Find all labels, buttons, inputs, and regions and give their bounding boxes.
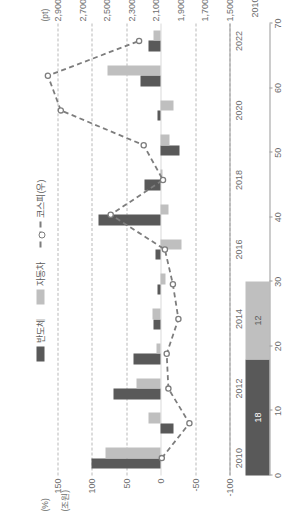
right-axis-tick-label: 1,500	[225, 0, 235, 21]
kospi-point-2017	[108, 212, 113, 217]
left-axis-tick-label: -50	[190, 478, 200, 491]
legend-item-semiconductor: 반도체	[34, 318, 47, 361]
left-axis-tick-label: 100	[87, 478, 97, 493]
x-axis-tick-label: 2016	[234, 239, 244, 259]
inset-plot-area: 1812	[246, 23, 258, 475]
legend-label-kospi: 코스피(우)	[34, 179, 47, 217]
right-axis-tick-label: 1,900	[175, 0, 185, 21]
kospi-point-2016	[162, 246, 167, 251]
kospi-line-series	[58, 23, 230, 475]
kospi-point-2011	[187, 420, 192, 425]
plot-area	[58, 23, 230, 475]
kospi-point-2014	[176, 316, 181, 321]
right-axis-tick-label: 2,500	[102, 0, 112, 21]
left-axis-tick-label: 0	[156, 478, 166, 483]
left-axis-tick-label: -100	[225, 478, 235, 496]
inset-axis-unit: (조원)	[58, 489, 70, 511]
legend-label-automobile: 자동차	[34, 261, 47, 285]
inset-segment-value-semiconductor: 18	[253, 412, 258, 422]
inset-segment-value-automobile: 12	[253, 315, 258, 325]
x-axis-line	[230, 23, 231, 475]
inset-segment-automobile: 12	[246, 281, 258, 358]
kospi-point-2010	[159, 455, 164, 460]
right-axis-unit: (pt)	[40, 8, 50, 21]
kospi-point-2015	[170, 281, 175, 286]
kospi-point-2021	[45, 73, 50, 78]
left-axis-unit: (%)	[40, 498, 50, 511]
right-axis-tick-label: 2,900	[53, 0, 63, 21]
x-axis-tick-label: 2020	[234, 100, 244, 120]
x-axis-tick-label: 2012	[234, 378, 244, 398]
right-axis-ticks: 2,9002,7002,5002,3002,1001,9001,7001,500	[58, 0, 230, 21]
inset-stacked-bar-chart: 1812 010203040506070	[246, 23, 258, 475]
kospi-point-2020	[58, 107, 63, 112]
x-axis-tick-label: 2010	[234, 448, 244, 468]
kospi-line-marker-icon	[39, 221, 41, 247]
kospi-point-2013	[164, 351, 169, 356]
kospi-point-2018	[160, 177, 165, 182]
x-axis-tick-label: 2018	[234, 169, 244, 189]
legend-item-automobile: 자동차	[34, 261, 47, 304]
left-axis-tick-label: 50	[121, 478, 131, 488]
right-axis-tick-label: 2,100	[151, 0, 161, 21]
chart-canvas: 반도체 자동차 코스피(우) (%) 150100500-50-100 (pt)…	[32, 0, 258, 511]
kospi-point-2012	[166, 386, 171, 391]
right-axis-tick-label: 2,700	[77, 0, 87, 21]
left-axis-ticks: 150100500-50-100	[58, 478, 230, 511]
legend-item-kospi: 코스피(우)	[34, 179, 47, 247]
inset-segment-semiconductor: 18	[246, 359, 258, 475]
right-axis-tick-label: 1,700	[200, 0, 210, 21]
legend-label-semiconductor: 반도체	[34, 318, 47, 342]
semiconductor-swatch-icon	[36, 346, 44, 361]
chart-legend: 반도체 자동차 코스피(우)	[34, 179, 47, 361]
inset-year-label: 2010	[250, 0, 258, 17]
automobile-swatch-icon	[36, 289, 44, 304]
right-axis-tick-label: 2,300	[126, 0, 136, 21]
kospi-point-2019	[141, 142, 146, 147]
x-axis-tick-label: 2014	[234, 309, 244, 329]
kospi-point-2022	[137, 38, 142, 43]
x-axis-tick-label: 2022	[234, 30, 244, 50]
